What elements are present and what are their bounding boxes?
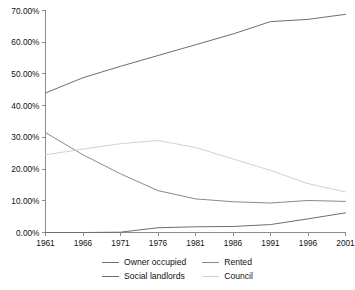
x-axis-tick-label: 1971 (111, 238, 130, 248)
legend-item-council[interactable]: Council (202, 270, 253, 282)
plot-area: 0.00%10.00%20.00%30.00%40.00%50.00%60.00… (0, 0, 355, 290)
series-line-council (46, 141, 346, 192)
x-axis-tick-label: 1966 (74, 238, 93, 248)
x-axis-tick-label: 1991 (261, 238, 280, 248)
legend-item-social-landlords[interactable]: Social landlords (102, 270, 186, 282)
legend-swatch-icon (102, 262, 119, 263)
series-line-social-landlords (46, 213, 346, 233)
legend-item-label: Council (224, 270, 253, 282)
x-axis-ticks: 196119661971197619811986199119962001 (36, 233, 355, 248)
legend-swatch-icon (202, 262, 219, 263)
legend-swatch-icon (202, 276, 219, 277)
legend-item-label: Rented (224, 256, 252, 268)
y-axis-tick-label: 20.00% (11, 164, 40, 174)
legend-item-label: Owner occupied (124, 256, 186, 268)
legend-swatch-icon (102, 276, 119, 277)
y-axis-tick-label: 60.00% (11, 37, 40, 47)
y-axis-tick-label: 50.00% (11, 69, 40, 79)
x-axis-tick-label: 2001 (336, 238, 355, 248)
x-axis-tick-label: 1996 (299, 238, 318, 248)
x-axis-tick-label: 1976 (149, 238, 168, 248)
legend-item-owner-occupied[interactable]: Owner occupied (102, 256, 186, 268)
legend-grid: Owner occupied Rented Social landlords C… (102, 256, 253, 282)
legend-item-label: Social landlords (124, 270, 185, 282)
chart-legend: Owner occupied Rented Social landlords C… (0, 256, 355, 290)
y-axis-ticks: 0.00%10.00%20.00%30.00%40.00%50.00%60.00… (11, 6, 45, 238)
legend-item-rented[interactable]: Rented (202, 256, 253, 268)
line-chart: 0.00%10.00%20.00%30.00%40.00%50.00%60.00… (0, 0, 355, 290)
y-axis-tick-label: 0.00% (16, 228, 40, 238)
series-line-rented (46, 133, 346, 203)
y-axis-tick-label: 30.00% (11, 132, 40, 142)
y-axis-tick-label: 10.00% (11, 196, 40, 206)
series-lines (46, 14, 346, 232)
x-axis-tick-label: 1981 (186, 238, 205, 248)
y-axis-tick-label: 70.00% (11, 6, 40, 16)
series-line-owner-occupied (46, 14, 346, 93)
x-axis-tick-label: 1961 (36, 238, 55, 248)
y-axis-tick-label: 40.00% (11, 101, 40, 111)
x-axis-tick-label: 1986 (224, 238, 243, 248)
